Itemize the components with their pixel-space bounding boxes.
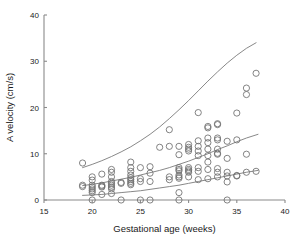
x-tick-label: 15 (40, 207, 49, 216)
y-tick-label: 40 (30, 11, 39, 20)
y-tick-label: 0 (35, 196, 40, 205)
x-tick-label: 30 (184, 207, 193, 216)
y-tick-label: 10 (30, 150, 39, 159)
x-tick-label: 35 (232, 207, 241, 216)
y-tick-label: 20 (30, 104, 39, 113)
y-axis-title: A velocity (cm/s) (4, 73, 15, 142)
y-tick-label: 30 (30, 57, 39, 66)
x-tick-label: 40 (281, 207, 290, 216)
chart-figure: 010203040152025303540Gestational age (we… (0, 0, 301, 241)
plot-background (0, 0, 301, 241)
x-tick-label: 25 (136, 207, 145, 216)
scatter-plot: 010203040152025303540Gestational age (we… (0, 0, 301, 241)
x-tick-label: 20 (88, 207, 97, 216)
x-axis-title: Gestational age (weeks) (113, 223, 215, 234)
